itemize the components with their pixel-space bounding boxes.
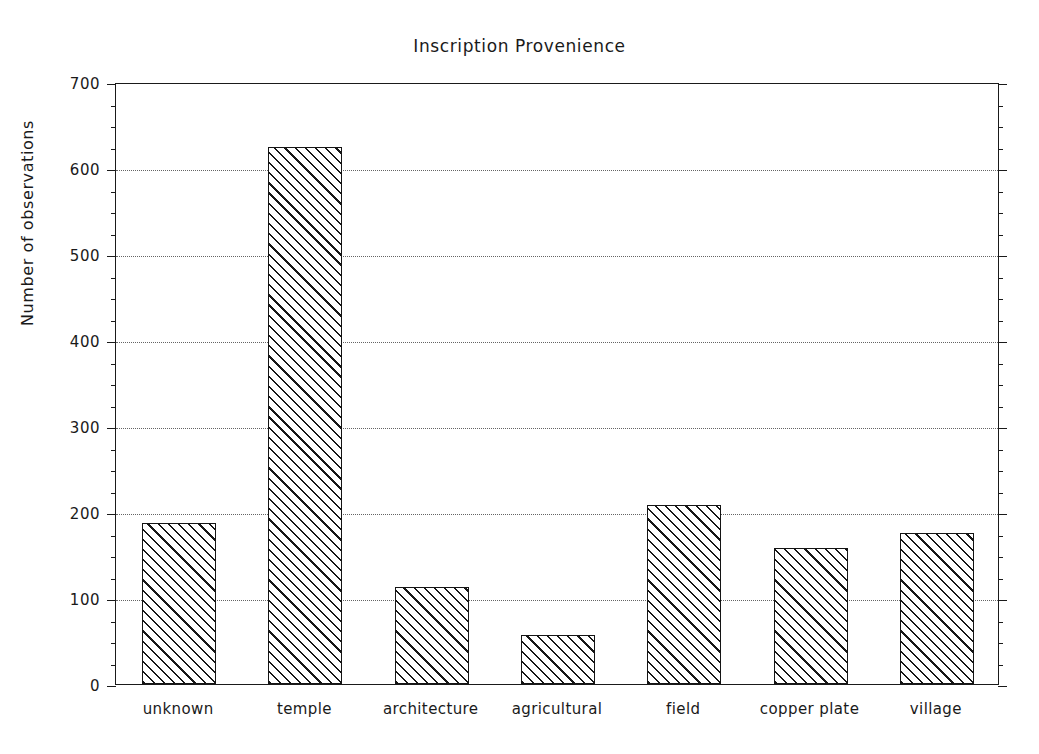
y-axis-minor-tick-right — [998, 235, 1003, 236]
bar — [900, 533, 974, 684]
x-axis-tick-label: village — [910, 700, 962, 718]
y-axis-minor-tick-right — [998, 450, 1003, 451]
y-axis-major-tick — [107, 342, 116, 343]
y-axis-tick-label: 200 — [70, 505, 100, 523]
y-axis-minor-tick-right — [998, 536, 1003, 537]
y-axis-minor-tick-right — [998, 579, 1003, 580]
y-axis-minor-tick-right — [998, 192, 1003, 193]
bar — [395, 587, 469, 684]
bar-series — [116, 84, 998, 684]
y-axis-minor-tick-right — [998, 643, 1003, 644]
y-axis-tick-label: 700 — [70, 75, 100, 93]
y-axis-major-tick — [107, 600, 116, 601]
y-axis-major-tick-right — [998, 600, 1007, 601]
y-axis-minor-tick-right — [998, 127, 1003, 128]
y-axis-minor-tick-right — [998, 665, 1003, 666]
y-axis-minor-tick-right — [998, 106, 1003, 107]
y-axis-major-tick-right — [998, 170, 1007, 171]
y-axis-tick-label: 500 — [70, 247, 100, 265]
y-axis-major-tick-right — [998, 84, 1007, 85]
y-axis-major-tick-right — [998, 514, 1007, 515]
x-axis-tick-label: temple — [277, 700, 332, 718]
x-axis-tick-label: unknown — [143, 700, 214, 718]
y-axis-minor-tick-right — [998, 493, 1003, 494]
x-axis-tick-label: copper plate — [760, 700, 859, 718]
y-axis-major-tick — [107, 514, 116, 515]
bar — [268, 147, 342, 685]
y-axis-minor-tick-right — [998, 364, 1003, 365]
x-axis-tick-labels: unknowntemplearchitectureagriculturalfie… — [115, 700, 999, 730]
y-axis-tick-label: 400 — [70, 333, 100, 351]
x-axis-tick-label: field — [666, 700, 700, 718]
y-axis-tick-label: 0 — [90, 677, 100, 695]
plot-area: 0100200300400500600700 — [115, 83, 999, 685]
y-axis-major-tick — [107, 256, 116, 257]
y-axis-minor-tick-right — [998, 471, 1003, 472]
y-axis-major-tick-right — [998, 342, 1007, 343]
y-axis-minor-tick-right — [998, 149, 1003, 150]
y-axis-major-tick — [107, 170, 116, 171]
y-axis-minor-tick-right — [998, 278, 1003, 279]
chart-title: Inscription Provenience — [0, 36, 1039, 56]
y-axis-major-tick-right — [998, 256, 1007, 257]
y-axis-minor-tick-right — [998, 407, 1003, 408]
y-axis-major-tick — [107, 84, 116, 85]
chart-figure: Inscription Provenience Number of observ… — [0, 0, 1039, 754]
y-axis-tick-label: 100 — [70, 591, 100, 609]
y-axis-minor-tick-right — [998, 321, 1003, 322]
bar — [647, 505, 721, 684]
y-axis-major-tick-right — [998, 686, 1007, 687]
y-axis-minor-tick-right — [998, 213, 1003, 214]
y-axis-major-tick — [107, 428, 116, 429]
y-axis-minor-tick-right — [998, 385, 1003, 386]
x-axis-tick-label: agricultural — [512, 700, 603, 718]
bar — [521, 635, 595, 684]
y-axis-minor-tick-right — [998, 622, 1003, 623]
y-axis-tick-label: 300 — [70, 419, 100, 437]
y-axis-tick-label: 600 — [70, 161, 100, 179]
y-axis-major-tick-right — [998, 428, 1007, 429]
bar — [774, 548, 848, 684]
y-axis-label: Number of observations — [18, 300, 37, 326]
x-axis-tick-label: architecture — [383, 700, 479, 718]
bar — [142, 523, 216, 684]
y-axis-minor-tick-right — [998, 557, 1003, 558]
y-axis-major-tick — [107, 686, 116, 687]
y-axis-minor-tick-right — [998, 299, 1003, 300]
